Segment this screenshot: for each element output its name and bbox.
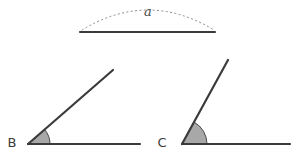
geometry-figure-canvas: a B C — [0, 0, 297, 159]
angle-b-vertex-label: B — [8, 135, 17, 150]
angle-c-vertex-label: C — [157, 135, 166, 150]
angle-b-slant-ray — [28, 70, 113, 144]
angle-b-group: B — [8, 70, 140, 150]
reference-length-label: a — [144, 4, 152, 19]
angle-c-slant-ray — [182, 60, 228, 144]
geometry-figure-svg: a B C — [0, 0, 297, 159]
reference-segment-group: a — [80, 4, 215, 32]
angle-c-group: C — [157, 60, 290, 150]
angle-c-arc-fill — [182, 122, 207, 144]
